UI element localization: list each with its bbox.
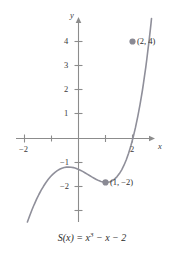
y-tick-label-1: 1: [64, 109, 68, 118]
cubic-curve: [27, 19, 151, 223]
point-marker-2-4: [129, 38, 135, 44]
x-tick-label-2: 2: [130, 145, 134, 154]
caption-function-name: S(x): [58, 232, 74, 243]
caption-rest: − x − 2: [93, 232, 126, 243]
x-tick-label-minus2: −2: [19, 145, 28, 154]
y-tick-label-3: 3: [64, 61, 68, 70]
annotation-point-2-4: (2, 4): [137, 37, 155, 46]
y-tick-label-4: 4: [64, 37, 68, 46]
annotation-point-1-minus2: (1, −2): [110, 178, 133, 187]
y-axis-arrow-icon: [76, 17, 82, 23]
caption-equals: =: [74, 232, 86, 243]
equation-caption: S(x) = x3 − x − 2: [0, 232, 184, 243]
y-tick-label-minus2: −2: [60, 182, 69, 191]
y-axis-label: y: [70, 11, 74, 20]
function-graph-figure: 4 3 2 1 −1 −2 −2 2 y x (2, 4) (1, −2) S(…: [0, 0, 184, 266]
y-tick-label-minus1: −1: [60, 158, 69, 167]
x-axis-arrow-icon: [149, 136, 155, 142]
x-axis-label: x: [158, 142, 162, 151]
graph-canvas: [0, 0, 184, 266]
point-marker-1-minus2: [102, 179, 108, 185]
y-tick-label-2: 2: [64, 85, 68, 94]
